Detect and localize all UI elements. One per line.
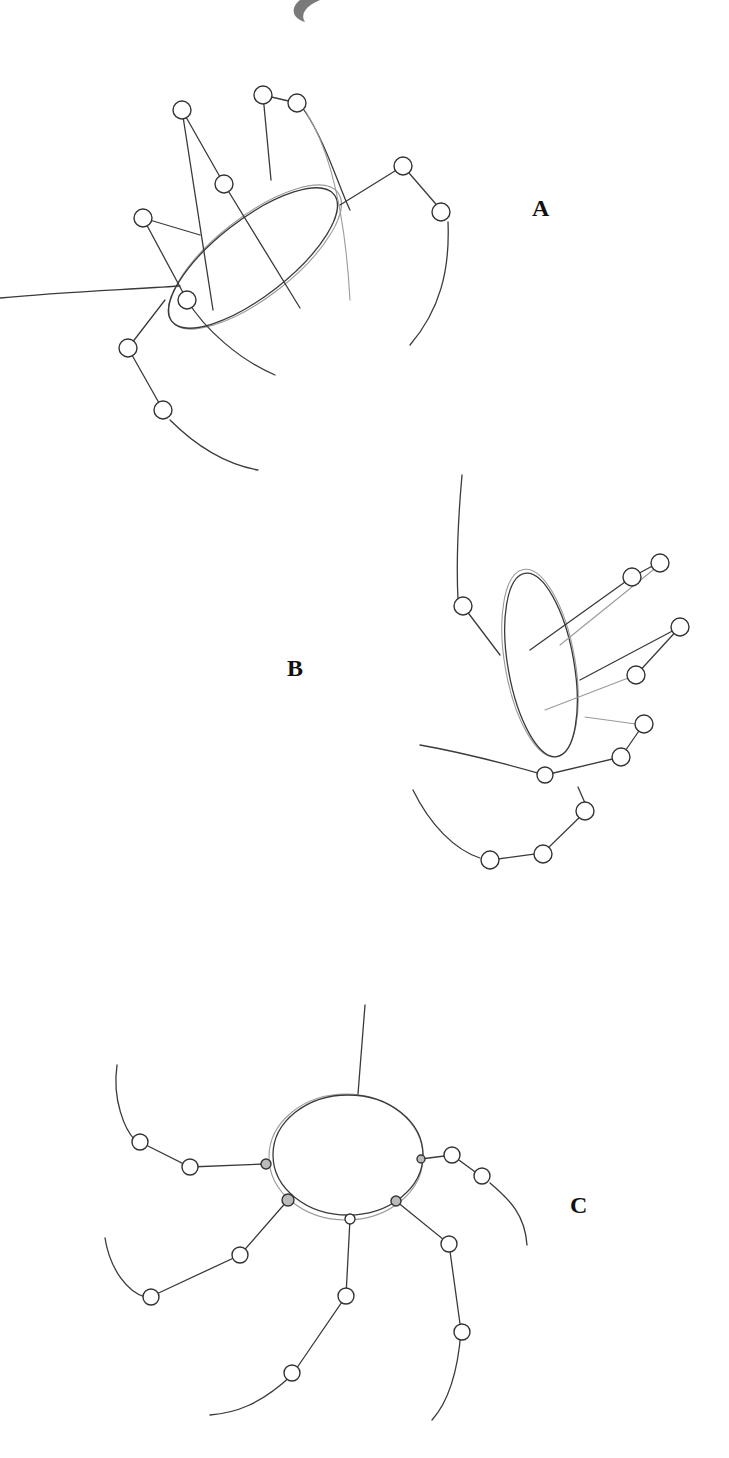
swoosh-mark xyxy=(294,0,320,22)
figure-a-sketch xyxy=(0,86,450,470)
figure-c-sketch xyxy=(105,1005,527,1420)
figure-b-label: B xyxy=(287,655,303,681)
figure-c-label: C xyxy=(570,1192,587,1218)
figure-b-sketch xyxy=(413,475,689,869)
figure-a-label: A xyxy=(532,195,550,221)
drawing-canvas: A B xyxy=(0,0,729,1458)
